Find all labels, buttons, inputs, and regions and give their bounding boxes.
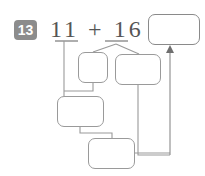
equation-text: 11 + 16 = bbox=[50, 14, 150, 44]
edge-16-to-boxb bbox=[116, 44, 139, 54]
work-box-a[interactable] bbox=[78, 52, 108, 83]
worksheet-problem: 13 11 + 16 = bbox=[0, 0, 205, 176]
arrow-head-icon bbox=[166, 45, 174, 53]
edge-boxc-to-boxd bbox=[80, 127, 112, 138]
edge-boxb-to-riser bbox=[138, 85, 170, 155]
answer-input-box[interactable] bbox=[148, 14, 200, 45]
work-box-d[interactable] bbox=[88, 138, 135, 169]
work-box-c[interactable] bbox=[57, 96, 104, 127]
edge-boxa-to-boxc bbox=[64, 83, 93, 91]
problem-number-badge: 13 bbox=[14, 20, 37, 40]
edge-16-to-boxa bbox=[93, 44, 116, 52]
work-box-b[interactable] bbox=[115, 54, 161, 85]
